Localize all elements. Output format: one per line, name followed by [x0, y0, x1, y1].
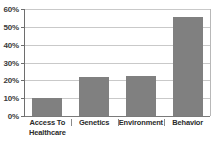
bars-container: [24, 9, 211, 116]
bar-slot: [118, 9, 165, 116]
y-axis-tick-label: 30%: [4, 58, 19, 67]
bar[interactable]: [126, 76, 156, 116]
bar-slot: [164, 9, 211, 116]
y-axis-tick-label: 20%: [4, 76, 19, 85]
x-axis-category-label-line: Behavior: [164, 118, 211, 128]
gridline: [25, 116, 210, 117]
x-axis-category-label: Environment: [118, 118, 165, 128]
y-axis-tick-label: 0%: [8, 112, 19, 121]
x-axis-category-label-line: Environment: [118, 118, 165, 128]
x-axis-category-label: Genetics: [71, 118, 118, 128]
y-axis-tick-label: 40%: [4, 40, 19, 49]
x-axis-category-label: Behavior: [164, 118, 211, 128]
y-axis-tick-label: 60%: [4, 5, 19, 14]
x-axis-category-label-line: Healthcare: [24, 128, 71, 138]
bar-chart-figure: 60%50%40%30%20%10%0% Access ToHealthcare…: [0, 0, 215, 156]
x-axis-category-label: Access ToHealthcare: [24, 118, 71, 137]
x-axis-separator-tick: [164, 119, 165, 126]
x-axis-separator-tick: [71, 119, 72, 126]
y-axis-tick-label: 10%: [4, 94, 19, 103]
y-axis-tick: [21, 116, 25, 117]
bar-slot: [24, 9, 71, 116]
bar-slot: [71, 9, 118, 116]
x-axis-category-label-line: Access To: [24, 118, 71, 128]
x-axis-categories: Access ToHealthcareGeneticsEnvironmentBe…: [24, 118, 211, 152]
x-axis-category-label-line: Genetics: [71, 118, 118, 128]
x-axis-separator-tick: [118, 119, 119, 126]
bar[interactable]: [79, 77, 109, 116]
bar[interactable]: [173, 17, 203, 116]
y-axis-tick-label: 50%: [4, 22, 19, 31]
bar[interactable]: [32, 98, 62, 116]
